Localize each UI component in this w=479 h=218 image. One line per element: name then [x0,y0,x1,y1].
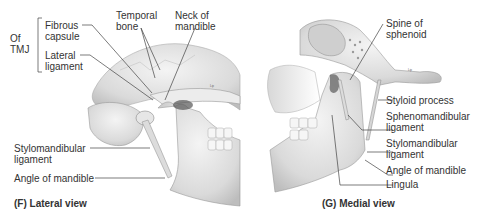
lateral-view-skull [88,44,240,206]
lateral-ligament-label-line2: ligament [45,61,83,72]
angle-of-mandible-medial-label: Angle of mandible [386,165,466,176]
artist-mark-medial: Lip [408,68,412,72]
temporal-bone-label-line1: Temporal [116,10,157,21]
neck-of-mandible-label-line2: mandible [175,21,216,32]
lingula-label: Lingula [386,179,418,190]
sphenomandibular-ligament-label-line2: ligament [386,122,424,133]
fibrous-capsule-label-line1: Fibrous [45,20,78,31]
medial-view-caption: (G) Medial view [322,198,395,209]
sphenomandibular-ligament-label-line1: Sphenomandibular [386,111,470,122]
of-tmj-label-line2: TMJ [10,44,29,55]
spine-of-sphenoid-label-line2: sphenoid [386,29,427,40]
spine-of-sphenoid-label-line1: Spine of [386,18,423,29]
fibrous-capsule-label-line2: capsule [45,31,79,42]
styloid-process-label: Styloid process [386,95,454,106]
stylomandibular-ligament-label-line1: Stylomandibular [14,143,86,154]
temporal-bone-label-line2: bone [116,21,138,32]
artist-mark: Lip [210,84,214,88]
stylomandibular-ligament-medial-label-line1: Stylomandibular [386,138,458,149]
lateral-ligament-label-line1: Lateral [45,50,76,61]
angle-of-mandible-label: Angle of mandible [14,173,94,184]
neck-of-mandible-label-line1: Neck of [175,10,209,21]
stylomandibular-ligament-label-line2: ligament [14,154,52,165]
of-tmj-label-line1: Of [10,33,21,44]
stylomandibular-ligament-medial-label-line2: ligament [386,149,424,160]
lateral-view-caption: (F) Lateral view [14,198,87,209]
